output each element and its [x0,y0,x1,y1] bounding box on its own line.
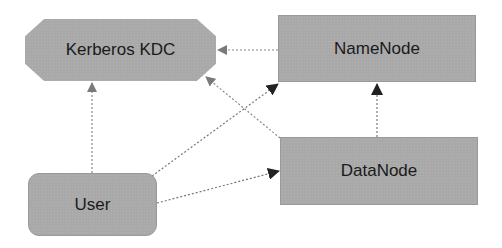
node-label: Kerberos KDC [66,40,176,60]
node-user: User [28,173,157,236]
node-label: DataNode [341,161,418,181]
node-datanode: DataNode [280,137,478,205]
node-namenode: NameNode [278,15,476,82]
node-label: User [75,195,111,215]
edge-user-to-namenode [152,84,278,176]
edge-user-to-datanode [157,171,279,203]
node-kerberos-kdc: Kerberos KDC [25,19,216,81]
node-label: NameNode [334,39,420,59]
